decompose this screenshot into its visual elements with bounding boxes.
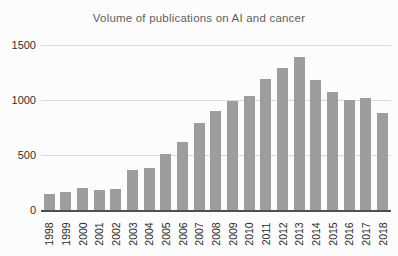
bar-2007 [194, 123, 205, 210]
x-tick-label-2007: 2007 [193, 222, 205, 245]
x-tick-cell-2003: 2003 [124, 213, 141, 255]
x-tick-cell-2010: 2010 [241, 213, 258, 255]
x-tick-cell-2008: 2008 [208, 213, 225, 255]
x-tick-label-2015: 2015 [327, 222, 339, 245]
publications-bar-chart: Volume of publications on AI and cancer … [0, 0, 398, 256]
bars-layer [41, 45, 391, 210]
bar-1999 [60, 192, 71, 210]
bar-2000 [77, 188, 88, 210]
x-tick-label-2011: 2011 [260, 223, 272, 246]
bar-2010 [244, 96, 255, 210]
x-tick-label-2009: 2009 [227, 222, 239, 245]
x-tick-label-2000: 2000 [77, 222, 89, 245]
x-tick-label-2017: 2017 [360, 222, 372, 245]
bar-2018 [377, 113, 388, 210]
y-tick-label-0: 0 [0, 204, 36, 216]
x-tick-label-2006: 2006 [177, 222, 189, 245]
x-tick-cell-2018: 2018 [374, 213, 391, 255]
x-tick-label-2004: 2004 [143, 222, 155, 245]
x-tick-cell-2009: 2009 [224, 213, 241, 255]
bar-2011 [260, 79, 271, 210]
x-tick-label-2014: 2014 [310, 222, 322, 245]
x-tick-label-2003: 2003 [127, 222, 139, 245]
bar-2009 [227, 101, 238, 210]
bar-2012 [277, 68, 288, 210]
x-tick-cell-2016: 2016 [341, 213, 358, 255]
x-tick-cell-1998: 1998 [41, 213, 58, 255]
bar-1998 [44, 194, 55, 210]
x-tick-cell-2004: 2004 [141, 213, 158, 255]
x-tick-label-2001: 2001 [93, 222, 105, 245]
y-axis-labels: 050010001500 [0, 45, 36, 210]
y-tick-label-500: 500 [0, 149, 36, 161]
x-axis-labels: 1998199920002001200220032004200520062007… [41, 213, 391, 255]
bar-2015 [327, 92, 338, 210]
x-tick-label-2005: 2005 [160, 222, 172, 245]
x-tick-cell-2007: 2007 [191, 213, 208, 255]
y-tick-label-1500: 1500 [0, 39, 36, 51]
x-tick-cell-1999: 1999 [58, 213, 75, 255]
bar-2005 [160, 154, 171, 210]
x-tick-label-2012: 2012 [277, 222, 289, 245]
x-tick-label-2016: 2016 [343, 222, 355, 245]
x-tick-cell-2017: 2017 [358, 213, 375, 255]
x-tick-cell-2015: 2015 [324, 213, 341, 255]
bar-2013 [294, 57, 305, 210]
x-tick-label-2002: 2002 [110, 222, 122, 245]
x-tick-cell-2011: 2011 [258, 213, 275, 255]
bar-2003 [127, 170, 138, 210]
x-tick-label-1999: 1999 [60, 222, 72, 245]
x-tick-cell-2013: 2013 [291, 213, 308, 255]
x-tick-cell-2012: 2012 [274, 213, 291, 255]
bar-2014 [310, 80, 321, 210]
x-tick-cell-2014: 2014 [308, 213, 325, 255]
bar-2001 [94, 190, 105, 210]
bar-2006 [177, 142, 188, 210]
bar-2017 [360, 98, 371, 210]
x-tick-label-2008: 2008 [210, 222, 222, 245]
bar-2016 [344, 100, 355, 210]
bar-2004 [144, 168, 155, 210]
x-tick-cell-2006: 2006 [174, 213, 191, 255]
bar-2008 [210, 111, 221, 210]
x-tick-cell-2005: 2005 [158, 213, 175, 255]
x-tick-cell-2000: 2000 [74, 213, 91, 255]
x-tick-label-2013: 2013 [293, 222, 305, 245]
plot-area [41, 45, 391, 212]
x-tick-label-2010: 2010 [243, 222, 255, 245]
y-tick-label-1000: 1000 [0, 94, 36, 106]
bar-2002 [110, 189, 121, 210]
chart-title: Volume of publications on AI and cancer [0, 12, 398, 24]
x-tick-cell-2001: 2001 [91, 213, 108, 255]
x-tick-label-2018: 2018 [377, 222, 389, 245]
x-tick-label-1998: 1998 [43, 222, 55, 245]
x-tick-cell-2002: 2002 [108, 213, 125, 255]
